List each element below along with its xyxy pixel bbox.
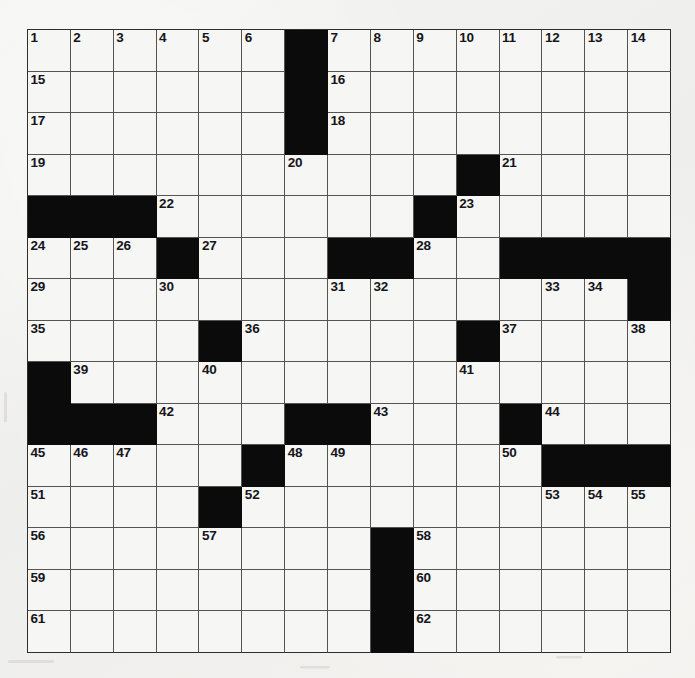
grid-cell[interactable] — [371, 445, 414, 487]
grid-cell[interactable] — [542, 528, 585, 570]
grid-cell[interactable] — [199, 196, 242, 238]
grid-cell[interactable] — [199, 611, 242, 653]
grid-cell[interactable]: 42 — [157, 404, 200, 446]
grid-cell[interactable] — [328, 196, 371, 238]
grid-cell[interactable] — [628, 528, 671, 570]
crossword-grid[interactable]: 1234567891011121314151617181920212223242… — [27, 29, 671, 653]
grid-cell[interactable] — [328, 487, 371, 529]
grid-cell[interactable] — [285, 611, 328, 653]
grid-cell[interactable] — [199, 155, 242, 197]
grid-cell[interactable]: 56 — [28, 528, 71, 570]
grid-cell[interactable] — [157, 570, 200, 612]
grid-cell[interactable] — [285, 238, 328, 280]
grid-cell[interactable] — [628, 362, 671, 404]
grid-cell[interactable] — [242, 279, 285, 321]
grid-cell[interactable] — [242, 155, 285, 197]
grid-cell[interactable]: 32 — [371, 279, 414, 321]
grid-cell[interactable]: 45 — [28, 445, 71, 487]
grid-cell[interactable]: 23 — [457, 196, 500, 238]
grid-cell[interactable] — [71, 155, 114, 197]
grid-cell[interactable] — [500, 72, 543, 114]
grid-cell[interactable]: 48 — [285, 445, 328, 487]
grid-cell[interactable] — [114, 155, 157, 197]
grid-cell[interactable] — [500, 570, 543, 612]
grid-cell[interactable] — [585, 321, 628, 363]
grid-cell[interactable] — [157, 321, 200, 363]
grid-cell[interactable] — [414, 445, 457, 487]
grid-cell[interactable] — [585, 196, 628, 238]
grid-cell[interactable] — [457, 113, 500, 155]
grid-cell[interactable] — [114, 570, 157, 612]
grid-cell[interactable] — [328, 362, 371, 404]
grid-cell[interactable] — [414, 279, 457, 321]
grid-cell[interactable] — [242, 611, 285, 653]
grid-cell[interactable]: 30 — [157, 279, 200, 321]
grid-cell[interactable]: 12 — [542, 30, 585, 72]
grid-cell[interactable] — [371, 113, 414, 155]
grid-cell[interactable] — [71, 528, 114, 570]
grid-cell[interactable] — [71, 321, 114, 363]
grid-cell[interactable]: 31 — [328, 279, 371, 321]
grid-cell[interactable] — [500, 528, 543, 570]
grid-cell[interactable]: 14 — [628, 30, 671, 72]
grid-cell[interactable] — [114, 362, 157, 404]
grid-cell[interactable] — [585, 113, 628, 155]
grid-cell[interactable] — [199, 445, 242, 487]
grid-cell[interactable] — [285, 321, 328, 363]
grid-cell[interactable]: 62 — [414, 611, 457, 653]
grid-cell[interactable] — [114, 487, 157, 529]
grid-cell[interactable] — [457, 238, 500, 280]
grid-cell[interactable] — [114, 72, 157, 114]
grid-cell[interactable]: 26 — [114, 238, 157, 280]
grid-cell[interactable] — [199, 570, 242, 612]
grid-cell[interactable] — [114, 113, 157, 155]
grid-cell[interactable] — [628, 155, 671, 197]
grid-cell[interactable]: 54 — [585, 487, 628, 529]
grid-cell[interactable]: 15 — [28, 72, 71, 114]
grid-cell[interactable] — [242, 113, 285, 155]
grid-cell[interactable]: 49 — [328, 445, 371, 487]
grid-cell[interactable] — [285, 196, 328, 238]
grid-cell[interactable]: 24 — [28, 238, 71, 280]
grid-cell[interactable] — [414, 487, 457, 529]
grid-cell[interactable] — [628, 404, 671, 446]
grid-cell[interactable]: 9 — [414, 30, 457, 72]
grid-cell[interactable]: 41 — [457, 362, 500, 404]
grid-cell[interactable] — [242, 570, 285, 612]
grid-cell[interactable] — [328, 155, 371, 197]
grid-cell[interactable] — [542, 113, 585, 155]
grid-cell[interactable]: 59 — [28, 570, 71, 612]
grid-cell[interactable] — [500, 279, 543, 321]
grid-cell[interactable] — [242, 362, 285, 404]
grid-cell[interactable] — [500, 611, 543, 653]
grid-cell[interactable]: 52 — [242, 487, 285, 529]
grid-cell[interactable] — [371, 321, 414, 363]
grid-cell[interactable]: 11 — [500, 30, 543, 72]
grid-cell[interactable]: 5 — [199, 30, 242, 72]
grid-cell[interactable]: 53 — [542, 487, 585, 529]
grid-cell[interactable] — [585, 528, 628, 570]
grid-cell[interactable]: 21 — [500, 155, 543, 197]
grid-cell[interactable]: 33 — [542, 279, 585, 321]
grid-cell[interactable] — [585, 362, 628, 404]
grid-cell[interactable] — [157, 72, 200, 114]
grid-cell[interactable]: 39 — [71, 362, 114, 404]
grid-cell[interactable]: 61 — [28, 611, 71, 653]
grid-cell[interactable] — [285, 570, 328, 612]
grid-cell[interactable] — [157, 487, 200, 529]
grid-cell[interactable]: 6 — [242, 30, 285, 72]
grid-cell[interactable] — [542, 72, 585, 114]
grid-cell[interactable]: 55 — [628, 487, 671, 529]
grid-cell[interactable]: 37 — [500, 321, 543, 363]
grid-cell[interactable] — [242, 528, 285, 570]
grid-cell[interactable]: 3 — [114, 30, 157, 72]
grid-cell[interactable]: 1 — [28, 30, 71, 72]
grid-cell[interactable]: 18 — [328, 113, 371, 155]
grid-cell[interactable]: 60 — [414, 570, 457, 612]
grid-cell[interactable] — [457, 279, 500, 321]
grid-cell[interactable]: 47 — [114, 445, 157, 487]
grid-cell[interactable]: 29 — [28, 279, 71, 321]
grid-cell[interactable] — [628, 196, 671, 238]
grid-cell[interactable]: 19 — [28, 155, 71, 197]
grid-cell[interactable]: 50 — [500, 445, 543, 487]
